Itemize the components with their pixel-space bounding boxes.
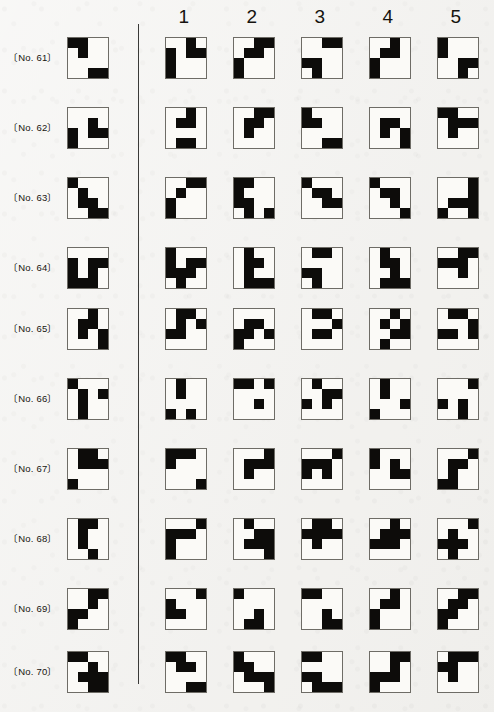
option-pattern-3[interactable] bbox=[301, 651, 343, 693]
option-pattern-4[interactable] bbox=[369, 448, 411, 490]
option-pattern-2[interactable] bbox=[233, 651, 275, 693]
pattern-cell bbox=[78, 529, 88, 539]
option-pattern-2[interactable] bbox=[233, 448, 275, 490]
option-pattern-2[interactable] bbox=[233, 107, 275, 149]
pattern-cell bbox=[302, 619, 312, 629]
pattern-cell bbox=[88, 459, 98, 469]
pattern-cell bbox=[438, 589, 448, 599]
pattern-cell bbox=[166, 208, 176, 218]
option-pattern-2[interactable] bbox=[233, 37, 275, 79]
option-pattern-4[interactable] bbox=[369, 518, 411, 560]
pattern-cell bbox=[448, 278, 458, 288]
pattern-cell bbox=[322, 652, 332, 662]
pattern-cell bbox=[68, 329, 78, 339]
option-pattern-3[interactable] bbox=[301, 107, 343, 149]
option-pattern-5[interactable] bbox=[437, 247, 479, 289]
pattern-cell bbox=[332, 248, 342, 258]
pattern-cell bbox=[458, 128, 468, 138]
pattern-grid bbox=[302, 519, 342, 559]
pattern-cell bbox=[176, 409, 186, 419]
pattern-cell bbox=[166, 309, 176, 319]
option-pattern-5[interactable] bbox=[437, 448, 479, 490]
option-pattern-1[interactable] bbox=[165, 37, 207, 79]
pattern-cell bbox=[88, 662, 98, 672]
option-pattern-1[interactable] bbox=[165, 308, 207, 350]
option-pattern-1[interactable] bbox=[165, 107, 207, 149]
option-pattern-4[interactable] bbox=[369, 588, 411, 630]
option-pattern-1[interactable] bbox=[165, 378, 207, 420]
pattern-cell bbox=[176, 549, 186, 559]
pattern-grid bbox=[68, 449, 108, 489]
option-pattern-5[interactable] bbox=[437, 177, 479, 219]
option-pattern-1[interactable] bbox=[165, 247, 207, 289]
pattern-cell bbox=[312, 599, 322, 609]
pattern-cell bbox=[370, 68, 380, 78]
pattern-cell bbox=[390, 188, 400, 198]
pattern-cell bbox=[176, 599, 186, 609]
pattern-cell bbox=[400, 399, 410, 409]
pattern-cell bbox=[254, 118, 264, 128]
option-pattern-2[interactable] bbox=[233, 177, 275, 219]
option-pattern-2[interactable] bbox=[233, 247, 275, 289]
option-pattern-3[interactable] bbox=[301, 177, 343, 219]
option-pattern-3[interactable] bbox=[301, 588, 343, 630]
pattern-cell bbox=[196, 459, 206, 469]
option-pattern-2[interactable] bbox=[233, 588, 275, 630]
pattern-cell bbox=[468, 138, 478, 148]
option-pattern-4[interactable] bbox=[369, 177, 411, 219]
option-pattern-5[interactable] bbox=[437, 518, 479, 560]
option-pattern-5[interactable] bbox=[437, 308, 479, 350]
option-pattern-4[interactable] bbox=[369, 651, 411, 693]
option-pattern-3[interactable] bbox=[301, 247, 343, 289]
option-pattern-5[interactable] bbox=[437, 378, 479, 420]
option-pattern-2[interactable] bbox=[233, 518, 275, 560]
pattern-cell bbox=[438, 449, 448, 459]
option-pattern-4[interactable] bbox=[369, 247, 411, 289]
pattern-cell bbox=[88, 188, 98, 198]
pattern-cell bbox=[88, 118, 98, 128]
option-pattern-4[interactable] bbox=[369, 107, 411, 149]
option-pattern-3[interactable] bbox=[301, 308, 343, 350]
pattern-cell bbox=[176, 459, 186, 469]
pattern-cell bbox=[88, 409, 98, 419]
option-pattern-1[interactable] bbox=[165, 177, 207, 219]
option-pattern-1[interactable] bbox=[165, 651, 207, 693]
option-pattern-1[interactable] bbox=[165, 588, 207, 630]
option-pattern-5[interactable] bbox=[437, 107, 479, 149]
pattern-cell bbox=[68, 662, 78, 672]
pattern-cell bbox=[458, 48, 468, 58]
pattern-cell bbox=[68, 248, 78, 258]
option-pattern-2[interactable] bbox=[233, 308, 275, 350]
option-pattern-4[interactable] bbox=[369, 37, 411, 79]
pattern-cell bbox=[78, 339, 88, 349]
option-pattern-1[interactable] bbox=[165, 518, 207, 560]
pattern-cell bbox=[196, 48, 206, 58]
option-pattern-3[interactable] bbox=[301, 518, 343, 560]
pattern-cell bbox=[332, 519, 342, 529]
option-pattern-5[interactable] bbox=[437, 651, 479, 693]
option-pattern-3[interactable] bbox=[301, 448, 343, 490]
option-pattern-3[interactable] bbox=[301, 378, 343, 420]
option-pattern-3[interactable] bbox=[301, 37, 343, 79]
pattern-cell bbox=[68, 409, 78, 419]
pattern-cell bbox=[438, 108, 448, 118]
pattern-cell bbox=[234, 198, 244, 208]
pattern-cell bbox=[186, 178, 196, 188]
pattern-cell bbox=[78, 399, 88, 409]
pattern-cell bbox=[186, 529, 196, 539]
option-pattern-5[interactable] bbox=[437, 588, 479, 630]
option-pattern-2[interactable] bbox=[233, 378, 275, 420]
pattern-cell bbox=[78, 278, 88, 288]
pattern-cell bbox=[196, 619, 206, 629]
pattern-cell bbox=[88, 479, 98, 489]
pattern-cell bbox=[234, 682, 244, 692]
pattern-cell bbox=[244, 662, 254, 672]
option-pattern-4[interactable] bbox=[369, 308, 411, 350]
pattern-cell bbox=[458, 118, 468, 128]
pattern-cell bbox=[458, 379, 468, 389]
pattern-cell bbox=[68, 58, 78, 68]
option-pattern-4[interactable] bbox=[369, 378, 411, 420]
option-pattern-5[interactable] bbox=[437, 37, 479, 79]
pattern-cell bbox=[176, 319, 186, 329]
option-pattern-1[interactable] bbox=[165, 448, 207, 490]
